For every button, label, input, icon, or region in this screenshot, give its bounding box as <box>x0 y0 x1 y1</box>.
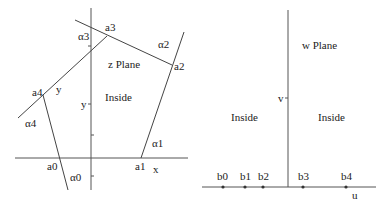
z-plane-panel: z Plane Inside x y y a0 a1 a2 a3 a4 α0 α… <box>15 8 188 190</box>
point-b4 <box>344 185 347 188</box>
angle-alpha1: α1 <box>152 137 163 149</box>
polygon-edge-a4-a0 <box>43 95 68 190</box>
angle-alpha4: α4 <box>25 117 37 129</box>
w-plane-inside-right: Inside <box>318 111 345 123</box>
point-b1 <box>243 185 246 188</box>
vertex-a1: a1 <box>135 160 145 172</box>
u-axis-label: u <box>352 189 358 201</box>
point-b3 <box>301 185 304 188</box>
vertex-a0: a0 <box>47 160 58 172</box>
w-plane-inside-left: Inside <box>231 111 258 123</box>
label-b4: b4 <box>341 170 353 182</box>
vertex-a4: a4 <box>32 86 43 98</box>
label-b1: b1 <box>240 170 251 182</box>
y-axis-label: y <box>81 98 87 110</box>
w-plane-panel: w Plane Inside Inside v u b0 b1 b2 b3 b4 <box>202 10 376 201</box>
label-b3: b3 <box>298 170 310 182</box>
z-plane-inside-label: Inside <box>105 91 132 103</box>
angle-alpha2: α2 <box>158 38 169 50</box>
point-b0 <box>221 185 224 188</box>
polygon-edge-a3-a4 <box>18 36 107 118</box>
label-b2: b2 <box>258 170 269 182</box>
edge-y-label: y <box>56 83 62 95</box>
point-b2 <box>261 185 264 188</box>
angle-alpha3: α3 <box>78 30 90 42</box>
vertex-a3: a3 <box>105 21 116 33</box>
z-plane-title: z Plane <box>108 58 140 70</box>
label-b0: b0 <box>217 170 229 182</box>
vertex-a2: a2 <box>174 60 184 72</box>
conformal-map-diagram: z Plane Inside x y y a0 a1 a2 a3 a4 α0 α… <box>0 0 388 212</box>
v-axis-label: v <box>278 92 284 104</box>
x-axis-label: x <box>153 163 159 175</box>
w-plane-title: w Plane <box>302 39 337 51</box>
angle-alpha0: α0 <box>70 171 82 183</box>
